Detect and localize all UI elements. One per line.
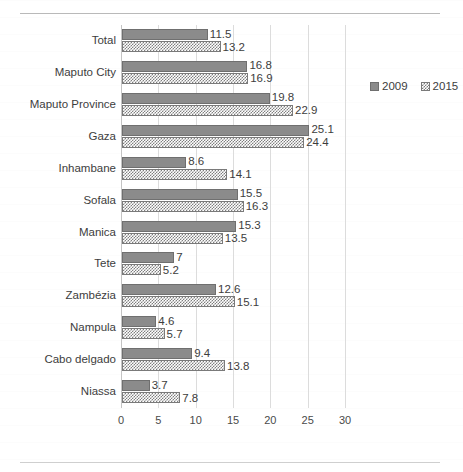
bar-value-label: 13.8 bbox=[227, 360, 249, 372]
bar-value-label: 13.2 bbox=[223, 41, 245, 53]
category-label: Maputo Province bbox=[30, 89, 116, 121]
bar-value-label: 9.4 bbox=[194, 347, 210, 359]
bar-value-label: 5.7 bbox=[167, 328, 183, 340]
bar-2015[interactable]: 13.5 bbox=[122, 233, 223, 244]
chart-band: Maputo Province19.822.9 bbox=[121, 89, 463, 121]
plot-area: Total11.513.2Maputo City16.816.9Maputo P… bbox=[121, 25, 345, 408]
chart-band: Total11.513.2 bbox=[121, 25, 463, 57]
bar-value-label: 3.7 bbox=[152, 379, 168, 391]
bar-2009[interactable]: 15.5 bbox=[122, 189, 238, 200]
chart-band: Gaza25.124.4 bbox=[121, 121, 463, 153]
chart-band: Inhambane8.614.1 bbox=[121, 153, 463, 185]
chart-band: Cabo delgado9.413.8 bbox=[121, 344, 463, 376]
bar-value-label: 16.3 bbox=[246, 200, 268, 212]
bar-2009[interactable]: 9.4 bbox=[122, 348, 192, 359]
bar-value-label: 24.4 bbox=[306, 136, 328, 148]
category-label: Total bbox=[92, 25, 116, 57]
category-label: Tete bbox=[94, 248, 116, 280]
bar-value-label: 15.5 bbox=[240, 187, 262, 199]
bar-2015[interactable]: 14.1 bbox=[122, 169, 227, 180]
bar-value-label: 19.8 bbox=[272, 91, 294, 103]
bar-value-label: 16.9 bbox=[250, 72, 272, 84]
category-label: Cabo delgado bbox=[44, 344, 116, 376]
category-label: Gaza bbox=[89, 121, 117, 153]
category-label: Nampula bbox=[70, 312, 116, 344]
legend-swatch-2009-icon bbox=[370, 82, 379, 91]
category-label: Zambézia bbox=[66, 280, 117, 312]
chart-band: Niassa3.77.8 bbox=[121, 376, 463, 408]
bar-2015[interactable]: 22.9 bbox=[122, 105, 293, 116]
bar-2009[interactable]: 8.6 bbox=[122, 157, 186, 168]
chart-band: Nampula4.65.7 bbox=[121, 312, 463, 344]
bar-value-label: 16.8 bbox=[249, 59, 271, 71]
legend-item-2009[interactable]: 2009 bbox=[370, 80, 408, 92]
bar-2015[interactable]: 16.9 bbox=[122, 73, 248, 84]
chart-band: Sofala15.516.3 bbox=[121, 185, 463, 217]
bar-2009[interactable]: 7 bbox=[122, 252, 174, 263]
x-tick-label-20: 20 bbox=[264, 414, 276, 426]
legend-label-2009: 2009 bbox=[382, 80, 408, 92]
bar-2015[interactable]: 5.2 bbox=[122, 264, 161, 275]
bar-2015[interactable]: 13.2 bbox=[122, 41, 221, 52]
bar-value-label: 22.9 bbox=[295, 104, 317, 116]
legend-item-2015[interactable]: 2015 bbox=[421, 80, 459, 92]
bar-2015[interactable]: 7.8 bbox=[122, 392, 180, 403]
bar-value-label: 13.5 bbox=[225, 232, 247, 244]
bar-2015[interactable]: 24.4 bbox=[122, 137, 304, 148]
bar-value-label: 14.1 bbox=[229, 168, 251, 180]
bar-value-label: 7.8 bbox=[182, 392, 198, 404]
chart-legend: 2009 2015 bbox=[370, 80, 458, 92]
bar-2009[interactable]: 12.6 bbox=[122, 284, 216, 295]
bar-2009[interactable]: 19.8 bbox=[122, 93, 270, 104]
chart-band: Tete75.2 bbox=[121, 248, 463, 280]
bar-value-label: 25.1 bbox=[311, 123, 333, 135]
category-label: Maputo City bbox=[55, 57, 116, 89]
bar-value-label: 5.2 bbox=[163, 264, 179, 276]
bar-2009[interactable]: 25.1 bbox=[122, 125, 309, 136]
category-label: Sofala bbox=[83, 185, 116, 217]
category-label: Manica bbox=[79, 217, 116, 249]
bar-2009[interactable]: 16.8 bbox=[122, 61, 247, 72]
bar-2009[interactable]: 3.7 bbox=[122, 380, 150, 391]
x-tick-label-30: 30 bbox=[339, 414, 351, 426]
legend-label-2015: 2015 bbox=[433, 80, 459, 92]
page-rule-bottom bbox=[20, 462, 440, 463]
category-label: Niassa bbox=[81, 376, 116, 408]
bar-2015[interactable]: 15.1 bbox=[122, 296, 235, 307]
bar-value-label: 15.1 bbox=[237, 296, 259, 308]
bar-value-label: 8.6 bbox=[188, 155, 204, 167]
x-tick-label-5: 5 bbox=[155, 414, 161, 426]
chart-band: Zambézia12.615.1 bbox=[121, 280, 463, 312]
bar-2009[interactable]: 4.6 bbox=[122, 316, 156, 327]
bar-value-label: 12.6 bbox=[218, 283, 240, 295]
x-tick-label-10: 10 bbox=[190, 414, 202, 426]
legend-swatch-2015-icon bbox=[421, 82, 430, 91]
category-label: Inhambane bbox=[58, 153, 116, 185]
bar-2015[interactable]: 5.7 bbox=[122, 328, 165, 339]
x-tick-label-25: 25 bbox=[302, 414, 314, 426]
bar-value-label: 4.6 bbox=[158, 315, 174, 327]
bar-value-label: 11.5 bbox=[210, 28, 232, 40]
bar-value-label: 7 bbox=[176, 251, 182, 263]
bar-2009[interactable]: 15.3 bbox=[122, 221, 236, 232]
chart-band: Manica15.313.5 bbox=[121, 217, 463, 249]
bar-chart: Total11.513.2Maputo City16.816.9Maputo P… bbox=[0, 18, 463, 458]
bar-2009[interactable]: 11.5 bbox=[122, 29, 208, 40]
x-axis: 051015202530 bbox=[121, 414, 345, 434]
bar-value-label: 15.3 bbox=[238, 219, 260, 231]
bar-2015[interactable]: 13.8 bbox=[122, 360, 225, 371]
bar-2015[interactable]: 16.3 bbox=[122, 201, 244, 212]
x-tick-label-15: 15 bbox=[227, 414, 239, 426]
page-rule-top bbox=[20, 13, 440, 14]
x-tick-label-0: 0 bbox=[118, 414, 124, 426]
